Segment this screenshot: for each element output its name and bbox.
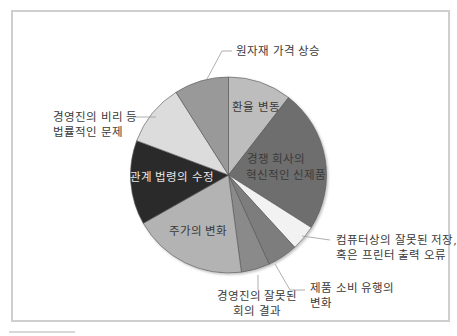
label-meeting-1: 경영진의 잘못된	[217, 289, 298, 303]
label-computer-2: 혹은 프린터 출력 오류	[336, 248, 446, 262]
label-exchange: 환율 변동	[232, 100, 280, 114]
label-rawmaterial: 원자재 가격 상승	[236, 44, 320, 58]
leader-trend	[275, 264, 305, 290]
leader-rawmaterial	[207, 51, 232, 79]
label-trend-2: 변화	[310, 296, 332, 310]
pie-chart: 원자재 가격 상승 경영진의 비리 등 법률적인 문제 컴퓨터상의 잘못된 저장…	[0, 0, 457, 336]
label-meeting-2: 회의 결과	[233, 304, 281, 318]
label-stock: 주가의 변화	[169, 224, 228, 238]
label-competitor-1: 경쟁 회사의	[247, 152, 306, 166]
label-competitor-2: 혁신적인 신제품	[246, 168, 327, 182]
label-corruption-2: 법률적인 문제	[53, 125, 123, 139]
leader-computer	[302, 236, 330, 240]
label-trend-1: 제품 소비 유행의	[310, 281, 394, 295]
label-corruption-1: 경영진의 비리 등	[53, 110, 137, 124]
label-computer-1: 컴퓨터상의 잘못된 저장,	[336, 233, 457, 247]
label-law: 관계 법령의 수정	[130, 170, 214, 184]
